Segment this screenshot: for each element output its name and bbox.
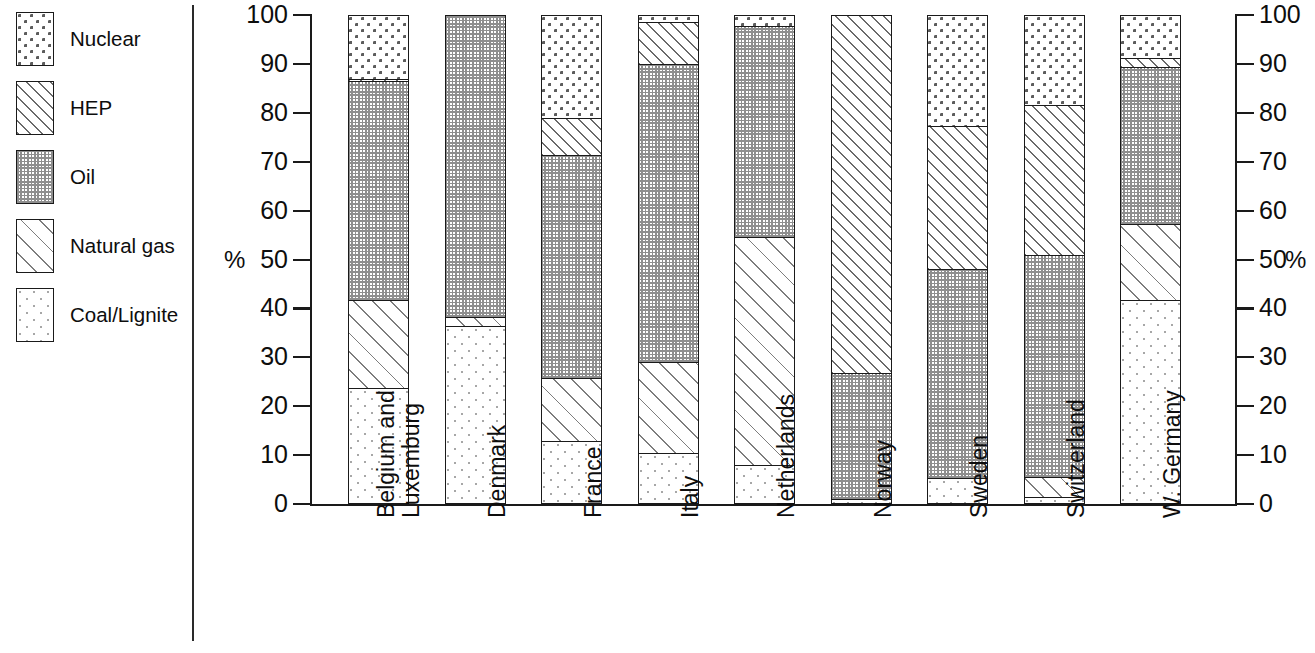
segment-nuclear[interactable] [927,15,988,126]
x-axis-label-norway: Norway [871,440,896,518]
y-tick-label-left-50: 50 [260,247,288,272]
y-tick-left-100 [293,14,310,16]
x-axis-label-italy: Italy [678,476,703,518]
y-tick-label-right-30: 30 [1259,344,1287,369]
segment-hep[interactable] [1024,105,1085,254]
y-tick-left-20 [293,405,310,407]
y-tick-left-0 [293,503,310,505]
y-tick-label-left-10: 10 [260,442,288,467]
bar-france[interactable] [541,15,602,504]
y-tick-right-40 [1237,307,1254,309]
y-tick-right-50 [1237,259,1254,261]
x-axis-label-w-germany: W. Germany [1160,390,1185,518]
segment-oil[interactable] [638,64,699,362]
y-tick-right-80 [1237,112,1254,114]
segment-nuclear[interactable] [1024,15,1085,105]
segment-nuclear[interactable] [348,15,409,79]
y-tick-label-left-80: 80 [260,100,288,125]
y-tick-left-90 [293,63,310,65]
segment-natural-gas[interactable] [541,378,602,442]
y-tick-left-10 [293,454,310,456]
y-tick-left-60 [293,210,310,212]
y-tick-left-30 [293,356,310,358]
y-tick-label-right-20: 20 [1259,393,1287,418]
segment-natural-gas[interactable] [638,362,699,452]
x-axis-label-netherlands: Netherlands [774,394,799,518]
y-tick-right-10 [1237,454,1254,456]
y-tick-right-60 [1237,210,1254,212]
plot-area: 0010102020303040405050606070708080909010… [0,0,1315,653]
segment-oil[interactable] [541,155,602,377]
segment-hep[interactable] [1120,58,1181,68]
y-tick-label-left-90: 90 [260,51,288,76]
segment-hep[interactable] [638,22,699,64]
segment-hep[interactable] [348,79,409,81]
y-axis-unit-left: % [224,248,245,272]
y-tick-left-40 [293,307,310,309]
y-tick-left-50 [293,259,310,261]
segment-oil[interactable] [348,81,409,300]
y-tick-label-right-10: 10 [1259,442,1287,467]
y-tick-right-0 [1237,503,1254,505]
segment-oil[interactable] [445,15,506,317]
y-tick-right-20 [1237,405,1254,407]
y-tick-label-right-80: 80 [1259,100,1287,125]
y-tick-label-left-60: 60 [260,198,288,223]
segment-oil[interactable] [734,26,795,238]
bar-sweden[interactable] [927,15,988,504]
y-tick-label-left-70: 70 [260,149,288,174]
y-tick-label-left-0: 0 [274,491,288,516]
y-tick-label-left-30: 30 [260,344,288,369]
y-tick-label-right-40: 40 [1259,295,1287,320]
segment-hep[interactable] [927,126,988,269]
y-tick-label-left-20: 20 [260,393,288,418]
segment-natural-gas[interactable] [445,317,506,326]
segment-natural-gas[interactable] [348,300,409,388]
y-tick-label-right-70: 70 [1259,149,1287,174]
x-axis-label-sweden: Sweden [967,435,992,518]
x-axis-label-denmark: Denmark [485,425,510,518]
y-tick-label-left-100: 100 [246,2,288,27]
y-tick-right-90 [1237,63,1254,65]
segment-hep[interactable] [541,118,602,156]
chart-root: Nuclear HEP Oil Natural gas Coal/Lignite… [0,0,1315,653]
y-axis-unit-right: % [1285,248,1306,272]
segment-hep[interactable] [831,15,892,373]
y-tick-right-70 [1237,161,1254,163]
y-tick-right-30 [1237,356,1254,358]
y-tick-label-right-100: 100 [1259,2,1301,27]
bar-italy[interactable] [638,15,699,504]
y-axis-left [310,14,312,506]
segment-nuclear[interactable] [638,15,699,22]
y-tick-label-left-40: 40 [260,295,288,320]
segment-natural-gas[interactable] [1120,224,1181,300]
y-tick-label-right-60: 60 [1259,198,1287,223]
x-axis-label-switzerland: Switzerland [1064,399,1089,518]
x-axis-label-france: France [581,446,606,518]
y-tick-label-right-50: 50 [1259,247,1287,272]
segment-oil[interactable] [1120,67,1181,223]
y-tick-label-right-0: 0 [1259,491,1273,516]
y-tick-right-100 [1237,14,1254,16]
y-tick-left-80 [293,112,310,114]
x-axis-label-belgium-and-luxemburg: Belgium and Luxemburg [374,390,424,518]
bar-norway[interactable] [831,15,892,504]
segment-nuclear[interactable] [1120,15,1181,58]
y-tick-label-right-90: 90 [1259,51,1287,76]
segment-nuclear[interactable] [541,15,602,118]
segment-nuclear[interactable] [734,15,795,26]
y-tick-left-70 [293,161,310,163]
